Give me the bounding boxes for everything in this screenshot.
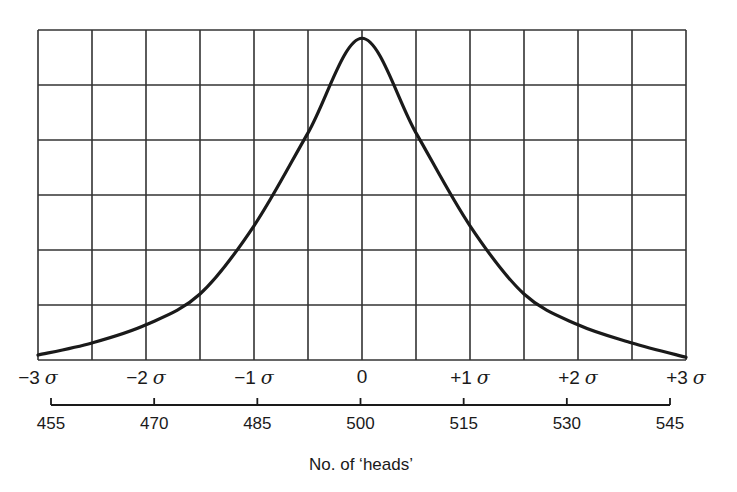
x-axis-title: No. of ‘heads’: [309, 455, 413, 475]
sigma-tick-value: +3: [666, 367, 688, 388]
count-tick-label: 470: [140, 414, 168, 434]
sigma-symbol: σ: [693, 366, 706, 388]
count-tick-label: 500: [346, 414, 374, 434]
sigma-tick-label: 0: [357, 366, 368, 388]
sigma-symbol: σ: [153, 366, 166, 388]
sigma-tick-value: +2: [558, 367, 580, 388]
sigma-tick-label: +1σ: [450, 366, 490, 389]
sigma-tick-value: −2: [126, 367, 148, 388]
count-tick-label: 515: [449, 414, 477, 434]
sigma-tick-value: 0: [357, 366, 368, 387]
sigma-symbol: σ: [45, 366, 58, 388]
sigma-symbol: σ: [585, 366, 598, 388]
sigma-tick-label: −3σ: [18, 366, 58, 389]
sigma-tick-value: +1: [450, 367, 472, 388]
count-tick-label: 485: [243, 414, 271, 434]
count-axis: [51, 398, 670, 405]
sigma-symbol: σ: [477, 366, 490, 388]
grid-lines: [38, 30, 686, 360]
sigma-tick-label: −2σ: [126, 366, 166, 389]
sigma-symbol: σ: [261, 366, 274, 388]
sigma-tick-value: −1: [234, 367, 256, 388]
sigma-tick-value: −3: [18, 367, 40, 388]
sigma-tick-label: +3σ: [666, 366, 706, 389]
count-tick-label: 545: [656, 414, 684, 434]
sigma-tick-label: −1σ: [234, 366, 274, 389]
sigma-tick-label: +2σ: [558, 366, 598, 389]
count-tick-label: 530: [553, 414, 581, 434]
count-tick-label: 455: [37, 414, 65, 434]
